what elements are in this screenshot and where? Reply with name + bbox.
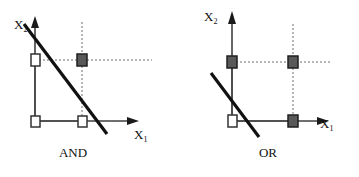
and-y-axis-arrowhead xyxy=(31,16,39,28)
or-caption: OR xyxy=(238,146,298,159)
and-point-0-1 xyxy=(31,54,40,66)
and-caption: AND xyxy=(38,146,108,159)
or-x-axis-label-text: X xyxy=(320,116,329,131)
and-x-axis-label-subscript: 1 xyxy=(143,135,147,144)
and-x-axis-label-text: X xyxy=(134,127,143,142)
and-y-axis-label-subscript: 2 xyxy=(23,25,27,34)
and-y-axis-label: X2 xyxy=(14,18,27,31)
or-point-0-0 xyxy=(228,115,237,127)
and-x-axis-arrowhead xyxy=(127,117,139,125)
or-plot-panel: X2 X1 OR xyxy=(180,0,359,177)
linear-separability-figure: X2 X1 AND xyxy=(0,0,359,177)
and-x-axis-label: X1 xyxy=(134,128,147,141)
or-y-axis-label: X2 xyxy=(204,10,217,23)
and-point-0-0 xyxy=(31,116,40,127)
or-point-1-1 xyxy=(288,56,298,68)
or-y-axis-label-text: X xyxy=(204,9,213,24)
or-y-axis-label-subscript: 2 xyxy=(213,17,217,26)
or-y-axis-arrowhead xyxy=(228,11,236,24)
or-point-0-1 xyxy=(227,56,237,68)
or-x-axis-label-subscript: 1 xyxy=(329,124,333,133)
and-y-axis-label-text: X xyxy=(14,17,23,32)
and-point-1-1 xyxy=(77,54,87,66)
or-x-axis-label: X1 xyxy=(320,117,333,130)
and-point-1-0 xyxy=(78,116,87,127)
and-plot-panel: X2 X1 AND xyxy=(0,0,179,177)
or-point-1-0 xyxy=(288,115,298,127)
